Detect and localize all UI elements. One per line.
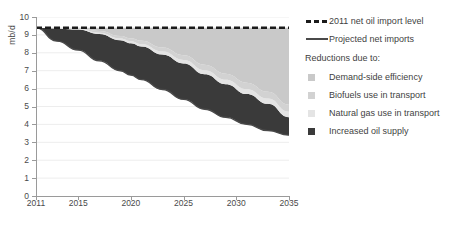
x-tick-mark — [184, 196, 185, 200]
x-tick-label: 2035 — [280, 199, 299, 208]
x-tick-mark — [236, 196, 237, 200]
y-tick-label: 2 — [24, 156, 29, 165]
legend-item: Biofuels use in transport — [305, 86, 457, 104]
legend-group-heading: Reductions due to: — [305, 48, 457, 68]
legend-item-list: Demand-side efficiencyBiofuels use in tr… — [305, 68, 457, 140]
y-axis-ticks: 012345678910 — [0, 0, 36, 225]
solid-line-icon — [305, 38, 329, 40]
legend-swatch-icon — [305, 128, 329, 135]
legend-label-reference-line: 2011 net oil import level — [329, 16, 423, 26]
plot-area — [36, 17, 289, 196]
x-tick-label: 2020 — [121, 199, 140, 208]
legend-item-label: Demand-side efficiency — [329, 72, 422, 82]
dashed-line-icon — [305, 20, 329, 23]
x-tick-mark — [78, 196, 79, 200]
y-tick-label: 10 — [20, 13, 29, 22]
legend-swatch-icon — [305, 92, 329, 99]
legend-item: Demand-side efficiency — [305, 68, 457, 86]
y-tick-label: 3 — [24, 138, 29, 147]
legend-swatch-icon — [305, 110, 329, 117]
x-axis-line — [36, 196, 290, 197]
chart-container: mb/d 012345678910 2011201520202025203020… — [0, 0, 458, 225]
chart-legend: 2011 net oil import level Projected net … — [305, 12, 457, 140]
y-tick-label: 9 — [24, 30, 29, 39]
x-tick-label: 2030 — [227, 199, 246, 208]
area-chart-svg — [36, 17, 289, 196]
x-tick-mark — [36, 196, 37, 200]
legend-item-reference-line: 2011 net oil import level — [305, 12, 457, 30]
legend-swatch-icon — [305, 74, 329, 81]
x-tick-label: 2011 — [27, 199, 45, 208]
x-tick-label: 2015 — [69, 199, 88, 208]
legend-item-label: Natural gas use in transport — [329, 108, 440, 118]
x-tick-mark — [131, 196, 132, 200]
y-tick-label: 6 — [24, 84, 29, 93]
legend-group-title-text: Reductions due to: — [305, 53, 380, 63]
legend-label-projected-imports: Projected net imports — [329, 34, 414, 44]
y-tick-label: 7 — [24, 66, 29, 75]
y-tick-label: 8 — [24, 48, 29, 57]
legend-item: Natural gas use in transport — [305, 104, 457, 122]
y-tick-label: 4 — [24, 120, 29, 129]
x-tick-mark — [289, 196, 290, 200]
y-tick-label: 5 — [24, 102, 29, 111]
y-axis-line — [36, 17, 37, 196]
legend-item-projected-imports: Projected net imports — [305, 30, 457, 48]
x-tick-label: 2025 — [174, 199, 193, 208]
legend-item-label: Biofuels use in transport — [329, 90, 426, 100]
y-tick-label: 1 — [24, 174, 29, 183]
legend-item: Increased oil supply — [305, 122, 457, 140]
legend-item-label: Increased oil supply — [329, 126, 409, 136]
